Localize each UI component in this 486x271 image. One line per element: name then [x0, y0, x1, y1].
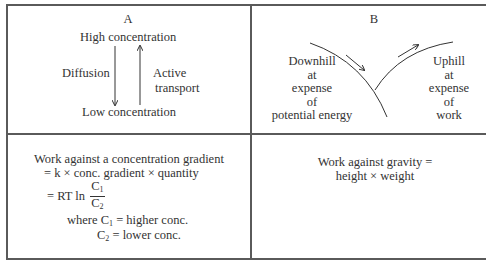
where-c2-definition: C2 = lower conc.	[97, 228, 181, 246]
uphill-line-2: at	[419, 69, 479, 83]
concentration-work-formula: = RT ln C1 C2	[47, 180, 105, 213]
downhill-line-4: of	[262, 96, 362, 110]
uphill-direction-arrow	[398, 45, 418, 57]
downhill-line-1: Downhill	[262, 55, 362, 69]
low-concentration-label: Low concentration	[82, 105, 176, 120]
uphill-line-4: of	[419, 96, 479, 110]
downhill-line-5: potential energy	[262, 109, 362, 123]
concentration-work-line-1: Work against a concentration gradient	[34, 152, 224, 167]
fraction-denominator: C2	[90, 197, 104, 213]
downhill-line-2: at	[262, 69, 362, 83]
uphill-line-3: expense	[419, 82, 479, 96]
downhill-line-3: expense	[262, 82, 362, 96]
fraction-numerator: C1	[90, 180, 104, 197]
formula-prefix: = RT ln	[47, 189, 85, 203]
panel-a-label: A	[118, 12, 138, 27]
diffusion-label: Diffusion	[62, 66, 110, 81]
uphill-line-1: Uphill	[419, 55, 479, 69]
gravity-work-line-1: Work against gravity =	[300, 155, 450, 170]
downhill-text: Downhill at expense of potential energy	[262, 55, 362, 123]
uphill-text: Uphill at expense of work	[419, 55, 479, 123]
gravity-work-line-2: height × weight	[300, 169, 450, 184]
panel-b-label: B	[364, 12, 384, 27]
active-label: Active	[153, 66, 186, 81]
concentration-ratio-fraction: C1 C2	[90, 180, 104, 213]
concentration-work-line-2: = k × conc. gradient × quantity	[44, 166, 199, 181]
uphill-line-5: work	[419, 109, 479, 123]
transport-label: transport	[155, 81, 199, 96]
high-concentration-label: High concentration	[80, 30, 176, 45]
